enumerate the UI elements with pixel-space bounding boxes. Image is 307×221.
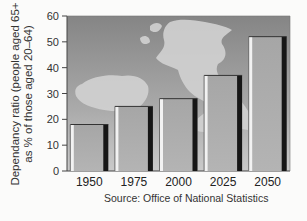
bar-2025 (204, 75, 242, 171)
y-tick-label: 50 (47, 36, 59, 48)
bar-2050 (249, 37, 287, 171)
y-tick-label: 0 (53, 165, 59, 177)
y-tick-label: 30 (47, 88, 59, 100)
plot-area: 0102030405060 19501975200020252050 (0, 0, 307, 221)
x-tick-label: 2000 (165, 175, 192, 189)
x-tick-label: 2025 (210, 175, 237, 189)
y-tick-label: 10 (47, 139, 59, 151)
bar-chart: 0102030405060 19501975200020252050 Depen… (0, 0, 307, 221)
y-axis-label-line-2: as % of those aged 20–64) (22, 2, 35, 185)
y-tick-label: 20 (47, 113, 59, 125)
x-tick-label: 1975 (121, 175, 148, 189)
y-axis-label: Dependancy ratio (people aged 65+ as % o… (0, 16, 44, 172)
y-axis-ticks: 0102030405060 (47, 10, 67, 177)
y-tick-label: 60 (47, 10, 59, 22)
bar-1975 (115, 106, 153, 171)
x-axis-labels: 19501975200020252050 (76, 175, 281, 189)
y-tick-label: 40 (47, 62, 59, 74)
y-axis-label-line-1: Dependancy ratio (people aged 65+ (9, 2, 22, 185)
bar-2000 (160, 99, 198, 171)
source-note: Source: Office of National Statistics (104, 192, 268, 204)
x-tick-label: 2050 (254, 175, 281, 189)
x-tick-label: 1950 (76, 175, 103, 189)
bar-1950 (70, 125, 108, 172)
